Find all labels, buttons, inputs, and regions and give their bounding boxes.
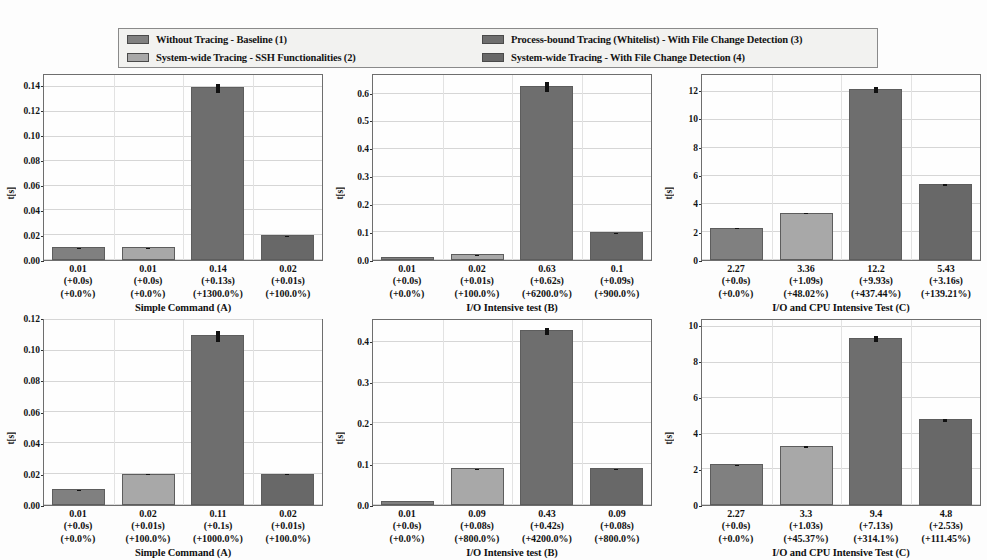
bar-delta-seconds-label: (+0.0s) [43, 275, 113, 288]
y-axis-ticks: 0.00.10.20.30.40.50.6 [346, 74, 372, 313]
bar-slot-4 [919, 320, 972, 505]
bar-slot-3 [849, 75, 902, 260]
y-axis-label: t[s] [6, 187, 16, 199]
error-bar-4 [943, 419, 947, 422]
bar-3[interactable] [520, 330, 573, 504]
bar-3[interactable] [849, 89, 902, 260]
chart-panel-6: t[s]02468102.27(+0.0s)(+0.0%)3.3(+1.03s)… [658, 315, 987, 560]
x-axis-title: Simple Command (A) [43, 546, 323, 558]
legend-entry-4[interactable]: System-wide Tracing - With File Change D… [482, 52, 877, 63]
y-tick-label: 0 [693, 256, 698, 266]
bar-slot-2 [122, 320, 175, 505]
bar-2[interactable] [451, 468, 504, 505]
chart-panel-1: t[s]0.000.020.040.060.080.100.120.140.01… [0, 70, 329, 315]
bar-delta-percent-label: (+0.0%) [701, 533, 771, 546]
y-tick-label: 6 [693, 393, 698, 403]
x-tick-label-2: 3.3(+1.03s)(+45.37%) [771, 508, 841, 546]
bar-2[interactable] [780, 446, 833, 505]
y-axis-ticks: 0246810 [675, 319, 701, 558]
y-axis-label: t[s] [335, 432, 345, 444]
legend-entry-2[interactable]: System-wide Tracing - SSH Functionalitie… [127, 52, 482, 63]
x-axis-tick-labels: 0.01(+0.0s)(+0.0%)0.09(+0.08s)(+800.0%)0… [372, 506, 652, 546]
bar-1[interactable] [710, 464, 763, 504]
legend-entry-1[interactable]: Without Tracing - Baseline (1) [127, 34, 482, 45]
bar-delta-seconds-label: (+0.62s) [512, 275, 582, 288]
bar-delta-seconds-label: (+0.1s) [183, 520, 253, 533]
bar-value-label: 0.01 [113, 263, 183, 276]
error-bar-2 [475, 469, 479, 470]
bar-delta-percent-label: (+1300.0%) [183, 288, 253, 301]
bar-value-label: 5.43 [911, 263, 981, 276]
bar-slot-1 [52, 320, 105, 505]
bar-delta-seconds-label: (+0.01s) [253, 520, 323, 533]
bar-delta-seconds-label: (+0.08s) [442, 520, 512, 533]
y-tick-label: 0.08 [23, 156, 40, 166]
bar-delta-percent-label: (+0.0%) [43, 288, 113, 301]
bar-slot-1 [52, 75, 105, 260]
y-axis-label: t[s] [664, 432, 674, 444]
bar-value-label: 0.02 [253, 263, 323, 276]
bar-1[interactable] [52, 247, 105, 259]
bar-4[interactable] [590, 468, 643, 505]
y-tick-label: 2 [693, 465, 698, 475]
error-bar-3 [216, 331, 220, 342]
legend-label-3: Process-bound Tracing (Whitelist) - With… [511, 34, 802, 45]
bar-delta-percent-label: (+100.0%) [253, 288, 323, 301]
bar-value-label: 2.27 [701, 508, 771, 521]
x-tick-label-1: 0.01(+0.0s)(+0.0%) [43, 263, 113, 301]
y-axis-ticks: 0.000.020.040.060.080.100.120.14 [17, 74, 43, 313]
bar-3[interactable] [849, 338, 902, 505]
bar-1[interactable] [52, 489, 105, 504]
bar-delta-seconds-label: (+2.53s) [911, 520, 981, 533]
bar-slot-4 [590, 320, 643, 505]
bar-delta-percent-label: (+314.1%) [841, 533, 911, 546]
y-axis-ticks: 0.000.020.040.060.080.100.12 [17, 319, 43, 558]
bar-1[interactable] [710, 228, 763, 260]
figure-canvas: Without Tracing - Baseline (1)Process-bo… [0, 0, 987, 560]
bar-4[interactable] [919, 184, 972, 260]
bar-slot-1 [710, 320, 763, 505]
bar-4[interactable] [590, 232, 643, 260]
y-tick-label: 0.6 [357, 89, 369, 99]
bar-delta-percent-label: (+6200.0%) [512, 288, 582, 301]
bar-delta-percent-label: (+437.44%) [841, 288, 911, 301]
bar-2[interactable] [451, 254, 504, 260]
bar-slot-4 [590, 75, 643, 260]
y-tick-label: 0.1 [357, 460, 369, 470]
x-tick-label-1: 0.01(+0.0s)(+0.0%) [43, 508, 113, 546]
bar-2[interactable] [780, 213, 833, 260]
error-bar-4 [285, 236, 289, 237]
bar-slot-1 [710, 75, 763, 260]
bar-1[interactable] [381, 257, 434, 260]
bar-4[interactable] [919, 419, 972, 504]
bar-value-label: 0.02 [442, 263, 512, 276]
y-axis-ticks: 024681012 [675, 74, 701, 313]
panel-inner: t[s]0246810122.27(+0.0s)(+0.0%)3.36(+1.0… [664, 74, 981, 313]
bar-delta-percent-label: (+45.37%) [771, 533, 841, 546]
y-tick-label: 0.06 [23, 181, 40, 191]
bar-3[interactable] [520, 86, 573, 260]
error-bar-1 [735, 228, 739, 229]
legend-entry-3[interactable]: Process-bound Tracing (Whitelist) - With… [482, 34, 877, 45]
y-tick-label: 10 [689, 114, 699, 124]
bar-delta-seconds-label: (+0.0s) [43, 520, 113, 533]
bar-1[interactable] [381, 501, 434, 505]
plot-column: 0.01(+0.0s)(+0.0%)0.02(+0.01s)(+100.0%)0… [372, 74, 652, 313]
bar-2[interactable] [122, 247, 175, 259]
bar-4[interactable] [261, 235, 314, 260]
bar-2[interactable] [122, 474, 175, 505]
x-tick-label-2: 0.02(+0.01s)(+100.0%) [113, 508, 183, 546]
bar-value-label: 3.36 [771, 263, 841, 276]
y-tick-label: 0.2 [357, 200, 369, 210]
y-tick-label: 0.2 [357, 419, 369, 429]
bar-4[interactable] [261, 474, 314, 505]
bar-slot-4 [261, 320, 314, 505]
bar-delta-seconds-label: (+7.13s) [841, 520, 911, 533]
bar-3[interactable] [191, 87, 244, 259]
x-tick-label-4: 0.1(+0.09s)(+900.0%) [582, 263, 652, 301]
bar-3[interactable] [191, 335, 244, 504]
y-tick-label: 0.00 [23, 501, 40, 511]
error-bar-4 [614, 233, 618, 234]
y-tick-label: 0.04 [23, 206, 40, 216]
panel-inner: t[s]0.000.020.040.060.080.100.120.01(+0.… [6, 319, 323, 558]
